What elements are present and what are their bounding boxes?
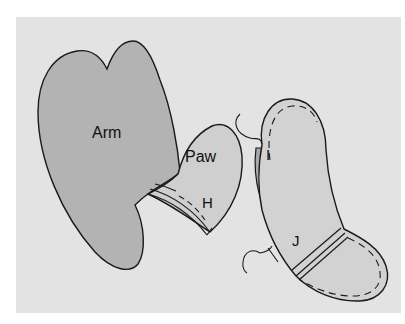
label-paw: Paw xyxy=(185,148,217,165)
thread-i xyxy=(236,114,262,144)
sewing-diagram: Arm Paw H I J xyxy=(0,0,405,324)
marker-i: I xyxy=(266,146,270,163)
marker-h: H xyxy=(202,194,213,211)
label-arm: Arm xyxy=(92,124,121,141)
leg-piece xyxy=(236,99,388,301)
thread-j xyxy=(243,246,272,273)
marker-j: J xyxy=(292,232,300,249)
arm-piece xyxy=(38,41,180,269)
